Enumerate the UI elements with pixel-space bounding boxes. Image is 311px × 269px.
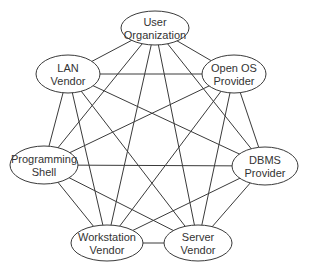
edge-user-organization-to-dbms-provider xyxy=(155,28,265,166)
node-label-line2: Vendor xyxy=(90,244,125,256)
node-label-line1: DBMS xyxy=(249,154,281,166)
edge-user-organization-to-programming-shell xyxy=(44,28,155,165)
node-label-line1: Open OS xyxy=(211,62,257,74)
ellipse-shape xyxy=(202,55,266,93)
node-programming-shell: ProgrammingShell xyxy=(10,146,78,184)
node-workstation-vendor: WorkstationVendor xyxy=(71,225,143,261)
node-open-os-provider: Open OSProvider xyxy=(202,55,266,93)
node-dbms-provider: DBMSProvider xyxy=(232,147,298,185)
ellipse-shape xyxy=(10,146,78,184)
node-label-line2: Vendor xyxy=(181,244,216,256)
node-lan-vendor: LANVendor xyxy=(36,55,100,93)
ellipse-shape xyxy=(232,147,298,185)
node-user-organization: UserOrganization xyxy=(121,11,189,45)
node-label-line2: Organization xyxy=(124,29,186,41)
node-label-line2: Provider xyxy=(214,75,255,87)
edge-open-os-provider-to-server-vendor xyxy=(198,74,234,243)
node-server-vendor: ServerVendor xyxy=(164,225,232,261)
edge-user-organization-to-server-vendor xyxy=(155,28,198,243)
node-label-line1: Server xyxy=(182,231,215,243)
node-label-line1: LAN xyxy=(57,62,78,74)
node-label-line1: User xyxy=(143,16,167,28)
node-label-line2: Vendor xyxy=(51,75,86,87)
stakeholder-network-diagram: UserOrganizationLANVendorOpen OSProvider… xyxy=(0,0,311,269)
node-label-line2: Provider xyxy=(245,167,286,179)
node-label-line2: Shell xyxy=(32,166,56,178)
node-label-line1: Programming xyxy=(11,153,77,165)
ellipse-shape xyxy=(36,55,100,93)
node-label-line1: Workstation xyxy=(78,231,136,243)
diagram-canvas: UserOrganizationLANVendorOpen OSProvider… xyxy=(0,0,311,269)
